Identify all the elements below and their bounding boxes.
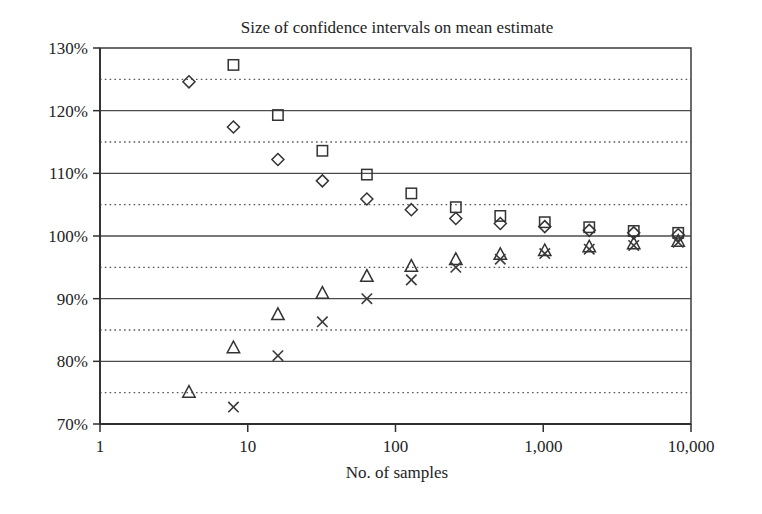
y-tick-label: 70% <box>57 415 88 434</box>
x-tick-label: 10,000 <box>668 437 715 456</box>
data-point-triangle <box>227 341 239 353</box>
data-point-x <box>584 244 594 254</box>
data-point-triangle <box>183 386 195 398</box>
data-point-diamond <box>361 193 373 205</box>
series-lower-cross <box>228 237 683 412</box>
data-point-square <box>540 217 550 227</box>
data-point-diamond <box>405 204 417 216</box>
x-axis-label: No. of samples <box>346 463 448 482</box>
data-point-square <box>451 202 461 212</box>
data-point-square <box>495 211 505 221</box>
y-tick-label: 120% <box>48 102 88 121</box>
data-point-triangle <box>361 270 373 282</box>
y-tick-label: 110% <box>49 164 88 183</box>
data-point-x <box>273 350 283 360</box>
data-point-diamond <box>583 224 595 236</box>
data-point-triangle <box>316 287 328 299</box>
x-tick-label: 1 <box>96 437 105 456</box>
data-point-triangle <box>405 260 417 272</box>
data-point-diamond <box>539 221 551 233</box>
data-point-square <box>362 169 372 179</box>
data-point-x <box>406 275 416 285</box>
x-tick-label: 1,000 <box>524 437 562 456</box>
y-tick-label: 100% <box>48 227 88 246</box>
data-point-diamond <box>227 121 239 133</box>
chart-container: Size of confidence intervals on mean est… <box>0 0 762 514</box>
data-point-square <box>317 146 327 156</box>
data-point-diamond <box>183 76 195 88</box>
series-lower-triangle <box>183 235 685 398</box>
data-point-x <box>317 317 327 327</box>
data-point-x <box>540 248 550 258</box>
data-point-diamond <box>450 212 462 224</box>
y-tick-label: 90% <box>57 290 88 309</box>
y-tick-label: 130% <box>48 39 88 58</box>
series-upper-square <box>228 60 683 238</box>
x-tick-label: 10 <box>239 437 256 456</box>
series-upper-diamond <box>183 76 684 241</box>
confidence-interval-scatter-chart: Size of confidence intervals on mean est… <box>0 0 762 514</box>
data-point-x <box>228 402 238 412</box>
data-point-diamond <box>316 175 328 187</box>
data-point-triangle <box>494 248 506 260</box>
data-point-diamond <box>272 154 284 166</box>
data-point-square <box>228 60 238 70</box>
y-tick-label: 80% <box>57 352 88 371</box>
data-point-triangle <box>272 308 284 320</box>
data-point-diamond <box>494 217 506 229</box>
x-tick-label: 100 <box>383 437 409 456</box>
chart-title: Size of confidence intervals on mean est… <box>241 18 554 37</box>
data-point-square <box>273 110 283 120</box>
data-point-square <box>406 188 416 198</box>
x-axis: 1101001,00010,000 <box>96 424 715 456</box>
major-gridlines <box>100 111 691 362</box>
y-axis: 70%80%90%100%110%120%130% <box>48 39 100 434</box>
